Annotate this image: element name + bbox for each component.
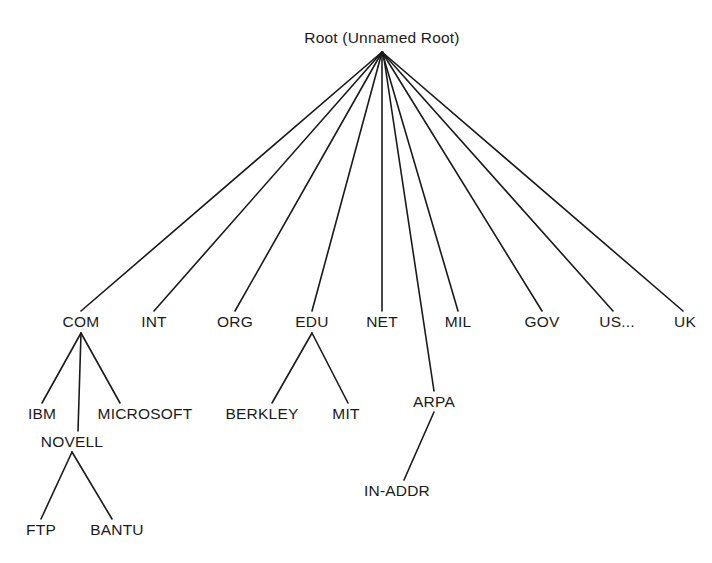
tree-node-bantu: BANTU — [90, 522, 144, 538]
dns-hierarchy-diagram: Root (Unnamed Root)COMINTORGEDUNETMILGOV… — [0, 0, 712, 563]
tree-node-net: NET — [366, 314, 398, 330]
tree-node-arpa: ARPA — [413, 394, 455, 410]
node-layer: Root (Unnamed Root)COMINTORGEDUNETMILGOV… — [0, 0, 712, 563]
tree-node-com: COM — [63, 314, 100, 330]
tree-node-org: ORG — [217, 314, 253, 330]
tree-node-microsoft: MICROSOFT — [98, 406, 193, 422]
tree-node-mil: MIL — [445, 314, 471, 330]
tree-node-ibm: IBM — [28, 406, 56, 422]
tree-node-uk: UK — [674, 314, 696, 330]
tree-node-edu: EDU — [295, 314, 328, 330]
tree-node-int: INT — [141, 314, 167, 330]
tree-node-in-addr: IN-ADDR — [364, 483, 430, 499]
tree-node-ftp: FTP — [26, 522, 56, 538]
tree-node-berkley: BERKLEY — [226, 406, 299, 422]
tree-node-gov: GOV — [524, 314, 559, 330]
tree-node-mit: MIT — [332, 406, 359, 422]
tree-node-novell: NOVELL — [41, 434, 103, 450]
tree-node-root: Root (Unnamed Root) — [304, 30, 459, 46]
tree-node-us: US... — [599, 314, 634, 330]
